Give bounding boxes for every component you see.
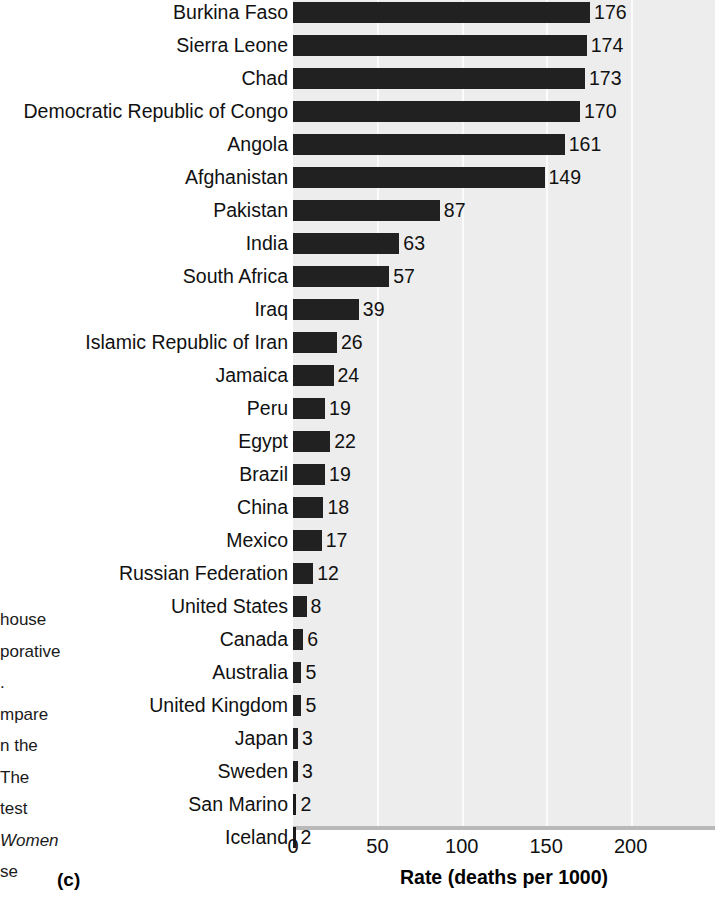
bar-value-label: 5 bbox=[305, 660, 316, 684]
bar bbox=[293, 68, 585, 89]
bar-value-label: 5 bbox=[305, 693, 316, 717]
bar-value-label: 22 bbox=[334, 429, 356, 453]
bar-value-label: 63 bbox=[403, 231, 425, 255]
bar-row: Egypt22 bbox=[0, 429, 715, 462]
bar bbox=[293, 398, 325, 419]
bar-value-label: 2 bbox=[300, 792, 311, 816]
bar bbox=[293, 35, 587, 56]
bar-category-label: United States bbox=[0, 594, 288, 618]
bar-category-label: Sweden bbox=[0, 759, 288, 783]
x-tick-label: 150 bbox=[530, 833, 563, 859]
bar-value-label: 57 bbox=[393, 264, 415, 288]
bar-category-label: Egypt bbox=[0, 429, 288, 453]
bar bbox=[293, 629, 303, 650]
bar-row: India63 bbox=[0, 231, 715, 264]
bar bbox=[293, 134, 565, 155]
bar-row: San Marino2 bbox=[0, 792, 715, 825]
bar-row: Brazil19 bbox=[0, 462, 715, 495]
figure-panel-c: houseporative.mparen theThetestWomense B… bbox=[0, 0, 715, 902]
bar-category-label: Burkina Faso bbox=[0, 0, 288, 24]
bar-value-label: 3 bbox=[302, 759, 313, 783]
bar bbox=[293, 365, 334, 386]
bar-value-label: 19 bbox=[329, 462, 351, 486]
x-tick-label: 200 bbox=[614, 833, 647, 859]
bar-row: Afghanistan149 bbox=[0, 165, 715, 198]
bar-category-label: Mexico bbox=[0, 528, 288, 552]
bar bbox=[293, 464, 325, 485]
bar bbox=[293, 761, 298, 782]
bar bbox=[293, 2, 590, 23]
bar-category-label: Canada bbox=[0, 627, 288, 651]
bar bbox=[293, 728, 298, 749]
bar-category-label: Pakistan bbox=[0, 198, 288, 222]
bar-value-label: 173 bbox=[589, 66, 622, 90]
bar bbox=[293, 794, 296, 815]
x-axis-title: Rate (deaths per 1000) bbox=[293, 866, 715, 889]
bar-category-label: South Africa bbox=[0, 264, 288, 288]
bar bbox=[293, 200, 440, 221]
bar-row: Sweden3 bbox=[0, 759, 715, 792]
bar bbox=[293, 662, 301, 683]
bar-rows: Burkina Faso176Sierra Leone174Chad173Dem… bbox=[0, 0, 715, 826]
bar-row: Sierra Leone174 bbox=[0, 33, 715, 66]
bar-value-label: 174 bbox=[591, 33, 624, 57]
bar-category-label: Peru bbox=[0, 396, 288, 420]
bar-value-label: 12 bbox=[317, 561, 339, 585]
bar-row: Pakistan87 bbox=[0, 198, 715, 231]
bar-value-label: 8 bbox=[311, 594, 322, 618]
panel-letter: (c) bbox=[57, 869, 80, 891]
bar-value-label: 87 bbox=[444, 198, 466, 222]
bar-value-label: 39 bbox=[363, 297, 385, 321]
bar-category-label: Angola bbox=[0, 132, 288, 156]
bar-category-label: Brazil bbox=[0, 462, 288, 486]
bar bbox=[293, 563, 313, 584]
bar-row: Democratic Republic of Congo170 bbox=[0, 99, 715, 132]
bar-row: Angola161 bbox=[0, 132, 715, 165]
x-tick-label: 0 bbox=[287, 833, 298, 859]
bar-category-label: Iraq bbox=[0, 297, 288, 321]
bar-row: Jamaica24 bbox=[0, 363, 715, 396]
bar-category-label: Australia bbox=[0, 660, 288, 684]
bar bbox=[293, 101, 580, 122]
bar-value-label: 149 bbox=[549, 165, 582, 189]
bar-row: Burkina Faso176 bbox=[0, 0, 715, 33]
bar-row: United States8 bbox=[0, 594, 715, 627]
bar-category-label: Afghanistan bbox=[0, 165, 288, 189]
bar bbox=[293, 332, 337, 353]
bar-row: Canada6 bbox=[0, 627, 715, 660]
bar-row: Japan3 bbox=[0, 726, 715, 759]
x-tick-label: 100 bbox=[445, 833, 478, 859]
bar-value-label: 26 bbox=[341, 330, 363, 354]
x-axis-tick-labels: 050100150200 bbox=[0, 833, 715, 861]
bar-value-label: 24 bbox=[338, 363, 360, 387]
bar-category-label: Chad bbox=[0, 66, 288, 90]
bar-category-label: Jamaica bbox=[0, 363, 288, 387]
bar-row: China18 bbox=[0, 495, 715, 528]
bar-category-label: San Marino bbox=[0, 792, 288, 816]
bar-value-label: 3 bbox=[302, 726, 313, 750]
bar-row: Mexico17 bbox=[0, 528, 715, 561]
bar-row: Peru19 bbox=[0, 396, 715, 429]
bar bbox=[293, 596, 307, 617]
bar bbox=[293, 497, 323, 518]
bar bbox=[293, 530, 322, 551]
bar bbox=[293, 431, 330, 452]
bar-category-label: Japan bbox=[0, 726, 288, 750]
bar bbox=[293, 266, 389, 287]
bar bbox=[293, 167, 545, 188]
bar-category-label: India bbox=[0, 231, 288, 255]
bar-value-label: 6 bbox=[307, 627, 318, 651]
bar bbox=[293, 233, 399, 254]
bar-category-label: Democratic Republic of Congo bbox=[0, 99, 288, 123]
bar-value-label: 19 bbox=[329, 396, 351, 420]
bar-value-label: 170 bbox=[584, 99, 617, 123]
bar-value-label: 176 bbox=[594, 0, 627, 24]
bar-category-label: Islamic Republic of Iran bbox=[0, 330, 288, 354]
bar-category-label: United Kingdom bbox=[0, 693, 288, 717]
bar-row: Australia5 bbox=[0, 660, 715, 693]
bar-row: Islamic Republic of Iran26 bbox=[0, 330, 715, 363]
bar-row: South Africa57 bbox=[0, 264, 715, 297]
bar-category-label: Sierra Leone bbox=[0, 33, 288, 57]
bar bbox=[293, 299, 359, 320]
bar-category-label: China bbox=[0, 495, 288, 519]
